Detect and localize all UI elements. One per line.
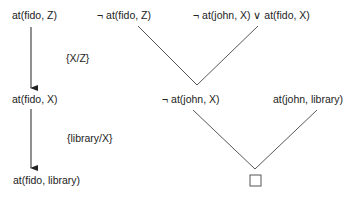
empty-clause-box xyxy=(250,175,261,186)
substitution2-label: {library/X} xyxy=(67,132,113,144)
left-step2-label: at(fido, X) xyxy=(12,93,58,105)
edge-resolvent-to-empty xyxy=(193,110,255,169)
clause-a-label: ¬ at(fido, Z) xyxy=(97,9,151,21)
resolvent-1-label: ¬ at(john, X) xyxy=(162,93,220,105)
left-step1-label: at(fido, Z) xyxy=(12,9,57,21)
edge-clause-c-to-empty xyxy=(255,110,317,169)
substitution1-label: {X/Z} xyxy=(66,52,89,64)
edge-clause-b-to-resolvent xyxy=(197,26,258,85)
clause-c-label: at(john, library) xyxy=(273,93,343,105)
clause-b-label: ¬ at(john, X) ∨ at(fido, X) xyxy=(193,9,310,21)
edge-clause-a-to-resolvent xyxy=(138,26,197,85)
left-step3-label: at(fido, library) xyxy=(13,174,80,186)
